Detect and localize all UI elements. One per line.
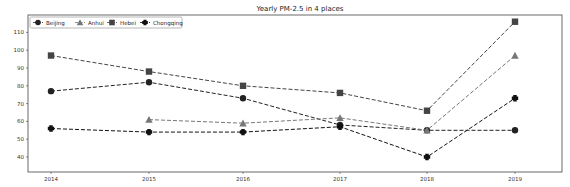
y-axis: 405060708090100110 (14, 29, 29, 160)
y-tick-label: 90 (17, 65, 24, 71)
y-tick-label: 40 (17, 154, 24, 160)
y-tick-label: 60 (17, 118, 24, 124)
series-beijing (48, 79, 518, 133)
x-tick-label: 2015 (142, 176, 156, 182)
square-marker-icon (109, 20, 115, 26)
triangle-marker-icon (511, 52, 518, 59)
cross-marker-icon (48, 125, 54, 131)
y-tick-label: 100 (14, 47, 25, 53)
legend-label: Beijing (46, 20, 65, 27)
x-tick-label: 2014 (44, 176, 58, 182)
y-tick-label: 110 (14, 29, 25, 35)
line-chart: Yearly PM-2.5 in 4 places 40506070809010… (0, 0, 570, 187)
x-tick-label: 2016 (236, 176, 250, 182)
legend-label: Chongqing (153, 20, 183, 27)
cross-marker-icon (424, 154, 430, 160)
cross-marker-icon (512, 95, 518, 101)
square-marker-icon (424, 108, 430, 114)
legend-item-hebei: Hebei (107, 20, 136, 26)
series-chongqing (48, 95, 518, 160)
legend: BeijingAnhuiHebeiChongqing (30, 17, 183, 28)
square-marker-icon (240, 83, 246, 89)
x-tick-label: 2018 (420, 176, 434, 182)
x-tick-label: 2019 (508, 176, 522, 182)
square-marker-icon (337, 90, 343, 96)
y-tick-label: 50 (17, 136, 24, 142)
circle-marker-icon (240, 95, 246, 101)
circle-marker-icon (512, 127, 518, 133)
cross-marker-icon (146, 129, 152, 135)
legend-label: Anhui (88, 20, 104, 26)
chart-title: Yearly PM-2.5 in 4 places (255, 5, 343, 13)
circle-marker-icon (35, 20, 41, 26)
cross-marker-icon (240, 129, 246, 135)
square-marker-icon (512, 19, 518, 25)
plot-area (28, 15, 562, 172)
data-series (48, 19, 519, 161)
square-marker-icon (48, 52, 54, 58)
x-tick-label: 2017 (333, 176, 347, 182)
y-tick-label: 70 (17, 101, 24, 107)
y-tick-label: 80 (17, 83, 24, 89)
circle-marker-icon (48, 88, 54, 94)
legend-label: Hebei (120, 20, 136, 26)
square-marker-icon (146, 68, 152, 74)
circle-marker-icon (146, 79, 152, 85)
series-hebei (48, 19, 518, 114)
x-axis: 201420152016201720182019 (44, 172, 522, 182)
